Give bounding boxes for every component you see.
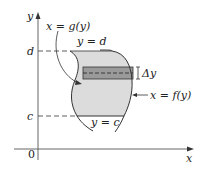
delta-y-label: Δy bbox=[141, 67, 157, 80]
y-axis-arrow-icon bbox=[36, 12, 41, 19]
c-label: c bbox=[27, 110, 33, 123]
origin-label: 0 bbox=[28, 148, 35, 161]
f-curve-label: x = f(y) bbox=[150, 89, 191, 102]
x-axis-label: x bbox=[186, 152, 193, 165]
x-axis-arrow-icon bbox=[187, 147, 194, 152]
g-curve-label: x = g(y) bbox=[46, 20, 90, 33]
f-leader-arrow-icon bbox=[132, 93, 137, 97]
g-leader bbox=[56, 31, 78, 83]
y-equals-c-label: y = c bbox=[90, 116, 120, 129]
y-axis-label: y bbox=[26, 10, 34, 23]
d-label: d bbox=[27, 45, 34, 58]
y-equals-d-label: y = d bbox=[76, 35, 106, 48]
diagram-canvas: y x 0 d c x = g(y) y = d y = c x = f(y) … bbox=[0, 0, 202, 176]
